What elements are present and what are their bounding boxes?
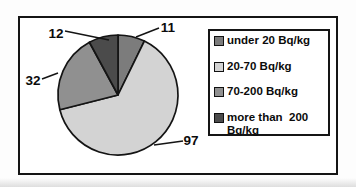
legend-label: more than 200 Bq/kg [227,111,326,137]
leader-line-12 [65,31,109,40]
legend-box: under 20 Bq/kg20-70 Bq/kg70-200 Bq/kgmor… [208,29,330,136]
legend-item: more than 200 Bq/kg [214,111,326,137]
data-label-12: 12 [48,26,63,41]
legend-swatch-icon [214,87,224,97]
data-label-97: 97 [183,133,198,148]
leader-line-11 [136,28,159,37]
leader-line-32 [42,73,58,79]
legend-item: under 20 Bq/kg [214,34,326,47]
legend-label: 20-70 Bq/kg [227,60,292,73]
legend-swatch-icon [214,62,224,72]
data-label-32: 32 [25,73,40,88]
legend-item: 70-200 Bq/kg [214,85,326,98]
chart-figure: 11973212 under 20 Bq/kg20-70 Bq/kg70-200… [0,0,356,187]
legend-item: 20-70 Bq/kg [214,60,326,73]
leader-line-97 [154,141,183,145]
legend-swatch-icon [214,113,224,123]
legend-label: 70-200 Bq/kg [227,85,298,98]
data-label-11: 11 [161,20,176,35]
legend-label: under 20 Bq/kg [227,34,310,47]
legend-swatch-icon [214,36,224,46]
